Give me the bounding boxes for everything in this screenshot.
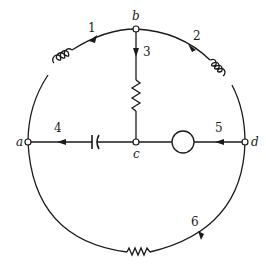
resistor-3-icon [132,80,140,111]
node-c [133,139,139,145]
branch-3: 3 [132,29,151,142]
inductor-1-icon [53,49,72,63]
circuit-diagram: 1 2 3 4 5 6 [0,0,266,267]
branch-1: 1 [28,21,136,142]
branch-label-6: 6 [191,215,199,229]
arrow-3-icon [133,48,139,57]
branch-2: 2 [136,29,245,142]
node-a [25,139,31,145]
branch-label-2: 2 [193,29,201,43]
resistor-6-icon [127,248,150,255]
node-label-a: a [16,135,23,149]
arrow-5-icon [215,139,224,145]
node-label-b: b [132,9,140,23]
arrow-1-icon [89,35,97,43]
inductor-2-icon [210,59,225,76]
branch-label-4: 4 [54,121,62,135]
branch-4: 4 [28,121,136,149]
node-label-c: c [133,147,140,161]
node-b [133,26,139,32]
branch-label-5: 5 [215,121,223,135]
branch-label-1: 1 [88,21,96,35]
branch-5: 5 [136,121,245,153]
source-5-icon [172,131,194,153]
node-label-d: d [251,135,259,149]
branch-label-3: 3 [143,45,151,59]
arrow-4-icon [57,139,66,145]
arrow-6-icon [198,231,204,240]
node-d [242,139,248,145]
